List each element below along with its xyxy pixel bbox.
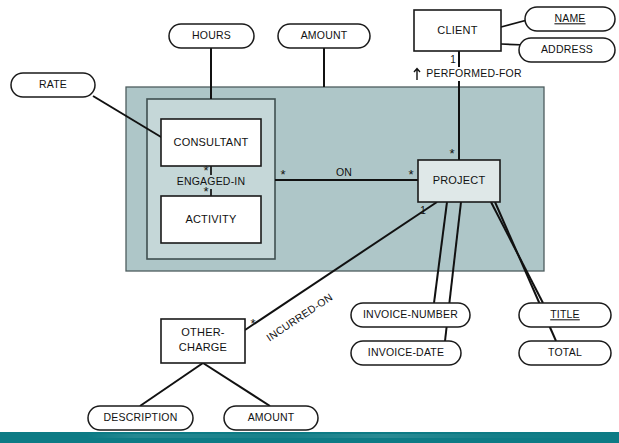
entity-client-label: CLIENT <box>437 24 477 36</box>
entity-project[interactable]: PROJECT <box>418 160 500 202</box>
attribute-title-label: TITLE <box>550 308 580 320</box>
attribute-title[interactable]: TITLE <box>519 303 611 327</box>
relationship-performed-for-label: PERFORMED-FOR <box>426 67 522 79</box>
cardinality-project-one-incurred: 1 <box>420 205 426 216</box>
attribute-total-label: TOTAL <box>548 346 582 358</box>
relationship-incurred-on-label: INCURRED-ON <box>264 291 335 344</box>
attribute-amount-bottom[interactable]: AMOUNT <box>224 406 318 430</box>
cardinality-activity-many: * <box>203 184 208 199</box>
entity-consultant[interactable]: CONSULTANT <box>161 119 261 166</box>
entity-other-charge-label-line2: CHARGE <box>179 341 227 353</box>
attribute-total[interactable]: TOTAL <box>519 341 611 365</box>
entity-client[interactable]: CLIENT <box>414 10 501 51</box>
attribute-address[interactable]: ADDRESS <box>519 38 615 62</box>
entity-other-charge[interactable]: OTHER- CHARGE <box>161 319 245 363</box>
attribute-hours-label: HOURS <box>192 29 231 41</box>
attribute-hours[interactable]: HOURS <box>169 24 254 48</box>
attribute-name[interactable]: NAME <box>525 7 615 31</box>
entity-project-label: PROJECT <box>433 174 486 186</box>
attribute-name-label: NAME <box>554 12 585 24</box>
entity-consultant-label: CONSULTANT <box>174 136 249 148</box>
attribute-invoice-date-label: INVOICE-DATE <box>368 346 444 358</box>
footer-accent-bar <box>0 432 619 443</box>
cardinality-consultant-many: * <box>203 163 208 178</box>
attribute-address-label: ADDRESS <box>541 43 593 55</box>
cardinality-composite-many: * <box>280 167 285 182</box>
attribute-rate[interactable]: RATE <box>11 73 95 97</box>
edge-other-charge-to-amount <box>203 363 270 406</box>
attribute-description-label: DESCRIPTION <box>104 411 178 423</box>
entity-other-charge-label-line1: OTHER- <box>181 326 224 338</box>
footer-sheen <box>0 434 619 438</box>
attribute-rate-label: RATE <box>39 78 67 90</box>
cardinality-client-one: 1 <box>450 54 456 65</box>
attribute-amount-top[interactable]: AMOUNT <box>278 24 370 48</box>
attribute-invoice-number-label: INVOICE-NUMBER <box>363 308 458 320</box>
er-diagram-canvas: CLIENT PROJECT CONSULTANT ACTIVITY OTHER… <box>0 0 619 443</box>
entity-activity-label: ACTIVITY <box>185 213 237 225</box>
attribute-amount-top-label: AMOUNT <box>301 29 348 41</box>
attribute-amount-bottom-label: AMOUNT <box>248 411 295 423</box>
attribute-invoice-number[interactable]: INVOICE-NUMBER <box>351 303 470 327</box>
attribute-description[interactable]: DESCRIPTION <box>88 406 193 430</box>
relationship-on-label: ON <box>336 166 352 178</box>
relationship-engaged-in-label: ENGAGED-IN <box>177 175 246 187</box>
edge-other-charge-to-description <box>140 363 203 406</box>
attribute-invoice-date[interactable]: INVOICE-DATE <box>351 341 461 365</box>
entity-activity[interactable]: ACTIVITY <box>161 196 261 243</box>
cardinality-project-many-performed-for: * <box>449 146 454 161</box>
cardinality-other-charge-many: * <box>250 316 255 331</box>
cardinality-project-many-on: * <box>408 167 413 182</box>
